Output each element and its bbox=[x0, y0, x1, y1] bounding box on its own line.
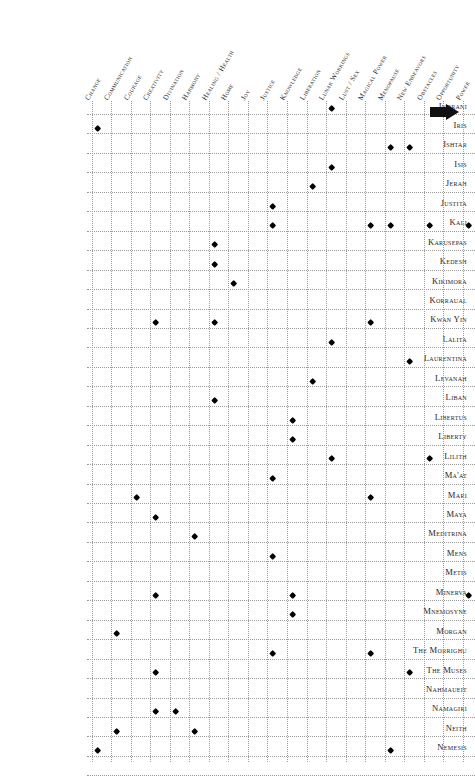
grid-line-horizontal bbox=[87, 464, 475, 465]
grid-line-vertical bbox=[267, 101, 268, 762]
row-label: Namagiri bbox=[383, 704, 467, 713]
grid-line-horizontal bbox=[87, 736, 475, 737]
cell-mark bbox=[172, 708, 180, 716]
grid-line-vertical bbox=[365, 101, 366, 762]
grid-line-vertical bbox=[463, 101, 464, 762]
grid-line-horizontal bbox=[87, 581, 475, 582]
grid-line-horizontal bbox=[87, 445, 475, 446]
cell-mark bbox=[289, 611, 297, 619]
grid-line-horizontal bbox=[87, 172, 475, 173]
cell-mark bbox=[308, 183, 316, 191]
row-label: Minerva bbox=[383, 588, 467, 597]
grid-line-horizontal bbox=[87, 639, 475, 640]
row-label: The Morrighu bbox=[383, 646, 467, 655]
grid-line-vertical bbox=[228, 101, 229, 762]
grid-line-horizontal bbox=[87, 270, 475, 271]
row-label: Nemesis bbox=[383, 743, 467, 752]
row-label: Ishtar bbox=[383, 140, 467, 149]
cell-mark bbox=[289, 416, 297, 424]
row-label: Lalita bbox=[383, 335, 467, 344]
cell-mark bbox=[289, 591, 297, 599]
grid-line-horizontal bbox=[87, 367, 475, 368]
grid-line-horizontal bbox=[87, 231, 475, 232]
row-label: Kedesh bbox=[383, 257, 467, 266]
cell-mark bbox=[269, 553, 277, 561]
grid-line-vertical bbox=[111, 101, 112, 762]
column-header: Courage bbox=[122, 73, 143, 101]
cell-mark bbox=[328, 339, 336, 347]
right-arrow-pointer-icon bbox=[430, 104, 460, 120]
row-label: Mens bbox=[383, 549, 467, 558]
grid-line-vertical bbox=[307, 101, 308, 762]
grid-line-horizontal bbox=[87, 484, 475, 485]
cell-mark bbox=[465, 222, 473, 230]
row-label: Isis bbox=[383, 160, 467, 169]
row-label: Kikimora bbox=[383, 277, 467, 286]
row-label: Mari bbox=[383, 491, 467, 500]
cell-mark bbox=[211, 261, 219, 269]
grid-line-horizontal bbox=[87, 698, 475, 699]
cell-mark bbox=[328, 164, 336, 172]
cell-mark bbox=[152, 708, 160, 716]
cell-mark bbox=[93, 747, 101, 755]
grid-line-horizontal bbox=[87, 678, 475, 679]
grid-line-horizontal bbox=[87, 406, 475, 407]
row-label: Justita bbox=[383, 199, 467, 208]
cell-mark bbox=[328, 105, 336, 113]
grid-line-horizontal bbox=[87, 114, 475, 115]
grid-line-horizontal bbox=[87, 425, 475, 426]
row-label: Mnemosyne bbox=[383, 607, 467, 616]
cell-mark bbox=[289, 436, 297, 444]
grid-line-vertical bbox=[92, 101, 93, 762]
cell-mark bbox=[269, 222, 277, 230]
row-label: Ma'at bbox=[383, 471, 467, 480]
grid-line-horizontal bbox=[87, 503, 475, 504]
row-label: Libertus bbox=[383, 413, 467, 422]
cell-mark bbox=[367, 494, 375, 502]
row-label: Maya bbox=[383, 510, 467, 519]
cell-mark bbox=[269, 475, 277, 483]
grid-line-horizontal bbox=[87, 756, 475, 757]
grid-line-vertical bbox=[170, 101, 171, 762]
column-header: Change bbox=[83, 77, 102, 102]
cell-mark bbox=[426, 455, 434, 463]
row-label: Laurentina bbox=[383, 354, 467, 363]
cell-mark bbox=[113, 630, 121, 638]
grid-line-horizontal bbox=[87, 192, 475, 193]
cell-mark bbox=[211, 319, 219, 327]
column-header: Justice bbox=[259, 78, 277, 101]
cell-mark bbox=[113, 728, 121, 736]
row-label: Iris bbox=[383, 121, 467, 130]
cell-mark bbox=[367, 319, 375, 327]
grid-line-horizontal bbox=[87, 620, 475, 621]
column-header: Home bbox=[220, 82, 235, 101]
row-label: Liban bbox=[383, 393, 467, 402]
cell-mark bbox=[269, 650, 277, 658]
cell-mark bbox=[132, 494, 140, 502]
row-label: Korraual bbox=[383, 296, 467, 305]
cell-mark bbox=[308, 377, 316, 385]
cell-mark bbox=[93, 125, 101, 133]
row-label: Levanah bbox=[383, 374, 467, 383]
grid-line-horizontal bbox=[87, 328, 475, 329]
cell-mark bbox=[211, 241, 219, 249]
grid-line-horizontal bbox=[87, 659, 475, 660]
grid-line-vertical bbox=[326, 101, 327, 762]
row-label: Liberty bbox=[383, 432, 467, 441]
grid-line-vertical bbox=[346, 101, 347, 762]
grid-line-horizontal bbox=[87, 153, 475, 154]
row-label: Metis bbox=[383, 568, 467, 577]
grid-line-horizontal bbox=[87, 386, 475, 387]
row-label: Jerah bbox=[383, 179, 467, 188]
column-header: Joy bbox=[239, 88, 251, 101]
grid-line-vertical bbox=[385, 101, 386, 762]
cell-mark bbox=[230, 280, 238, 288]
grid-line-vertical bbox=[150, 101, 151, 762]
cell-mark bbox=[191, 533, 199, 541]
row-label: The Muses bbox=[383, 666, 467, 675]
grid-line-horizontal bbox=[87, 250, 475, 251]
row-label: Neith bbox=[383, 724, 467, 733]
row-label: Morgan bbox=[383, 627, 467, 636]
cell-mark bbox=[211, 397, 219, 405]
row-label: Kali bbox=[383, 218, 467, 227]
